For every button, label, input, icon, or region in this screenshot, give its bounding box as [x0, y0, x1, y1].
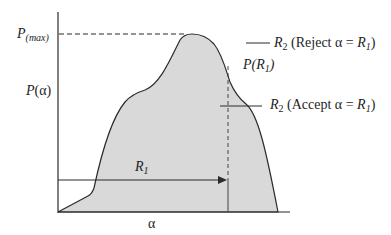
p-r1-post: )	[270, 57, 275, 72]
r1-arrow-label: R1	[135, 160, 149, 174]
r2-accept-close: )	[371, 97, 376, 112]
alpha-text: α	[148, 216, 155, 231]
r2-reject-main: R	[274, 35, 283, 50]
r1-sub: 1	[144, 165, 149, 176]
p-r1-pre: P(	[243, 57, 256, 72]
p-max-label: P(max)	[17, 27, 49, 41]
r2-accept-r: R	[357, 97, 366, 112]
p-r1-label: P(R1)	[243, 58, 274, 72]
p-r1-main: R	[256, 57, 265, 72]
p-max-main: P	[17, 26, 26, 41]
p-max-sub: (max)	[26, 32, 49, 43]
alpha-axis-label: α	[148, 217, 155, 231]
p-alpha-label: P(α) P(α)	[26, 84, 51, 98]
r2-reject-close: )	[371, 35, 376, 50]
r1-main: R	[135, 159, 144, 174]
r2-reject-text: (Reject α =	[288, 35, 358, 50]
r2-accept-main: R	[270, 97, 279, 112]
r2-reject-r: R	[357, 35, 366, 50]
r2-accept-label: R2 (Accept α = R1)	[270, 98, 375, 112]
r2-accept-text: (Accept α =	[284, 97, 358, 112]
r2-reject-label: R2 (Reject α = R1)	[274, 36, 375, 50]
